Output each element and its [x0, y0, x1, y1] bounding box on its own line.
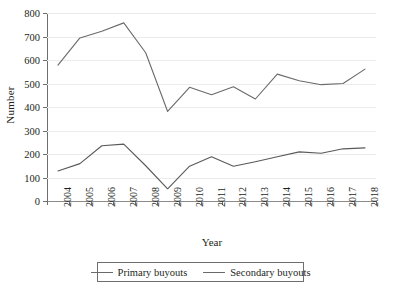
y-axis-tick-label: 100: [24, 172, 40, 183]
y-axis-tick-label: 800: [24, 8, 40, 19]
y-axis-tick-label: 0: [35, 196, 40, 207]
line-chart: Number 0100200300400500600700800 2004200…: [0, 0, 394, 291]
y-axis-tick-label: 600: [24, 55, 40, 66]
y-axis-tick-label: 700: [24, 31, 40, 42]
legend-label-primary: Primary buyouts: [118, 267, 188, 278]
legend-line-primary-icon: [91, 272, 113, 273]
y-axis-title: Number: [2, 0, 18, 210]
series-lines: [47, 13, 376, 201]
y-axis-tick-label: 300: [24, 125, 40, 136]
series-line-secondary: [58, 144, 365, 189]
series-line-primary: [58, 23, 365, 112]
y-axis-tick-label: 500: [24, 78, 40, 89]
legend-item-primary: Primary buyouts: [91, 267, 188, 278]
y-axis-tick-label: 200: [24, 149, 40, 160]
legend-line-secondary-icon: [203, 272, 225, 273]
legend-label-secondary: Secondary buyouts: [230, 267, 310, 278]
x-axis-title-text: Year: [172, 236, 222, 248]
x-axis-title: Year: [0, 236, 394, 248]
plot-area: 0100200300400500600700800 20042005200620…: [47, 13, 376, 201]
x-axis-tick: [47, 201, 48, 205]
legend-item-secondary: Secondary buyouts: [203, 267, 310, 278]
y-axis-tick-label: 400: [24, 102, 40, 113]
chart-legend: Primary buyouts Secondary buyouts: [97, 262, 304, 282]
y-axis-title-text: Number: [4, 86, 16, 123]
